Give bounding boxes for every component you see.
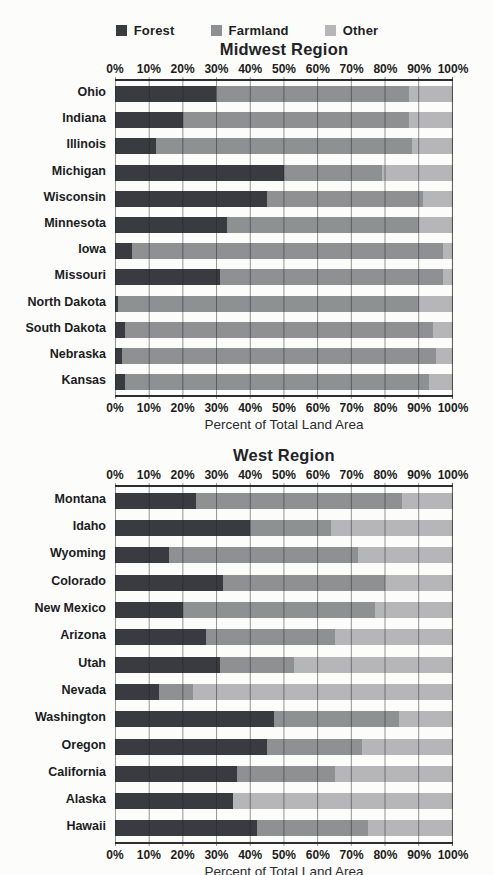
bar-row <box>115 515 453 542</box>
other-segment <box>423 191 453 207</box>
state-labels-column: MontanaIdahoWyomingColoradoNew MexicoAri… <box>0 485 115 844</box>
bar-row <box>115 733 453 760</box>
state-label: New Mexico <box>0 594 115 621</box>
other-segment <box>429 374 453 390</box>
bar-track <box>115 602 453 618</box>
other-segment <box>436 348 453 364</box>
x-tick: 60% <box>306 848 330 862</box>
x-axis-top: 0%10%20%30%40%50%60%70%80%90%100% <box>115 468 453 483</box>
state-label: Washington <box>0 704 115 731</box>
bar-track <box>115 793 453 809</box>
farmland-segment <box>132 243 443 259</box>
x-tick: 60% <box>306 401 330 415</box>
farmland-segment <box>183 602 376 618</box>
x-tick: 70% <box>340 848 364 862</box>
legend-item-forest: Forest <box>116 23 175 38</box>
other-segment <box>419 296 453 312</box>
farmland-segment <box>196 493 402 509</box>
farmland-segment <box>257 820 369 836</box>
other-segment <box>233 793 453 809</box>
x-tick: 10% <box>137 401 161 415</box>
x-tick: 20% <box>171 848 195 862</box>
farmland-segment <box>125 374 429 390</box>
x-tick: 60% <box>306 468 330 482</box>
legend-item-farmland: Farmland <box>211 23 289 38</box>
bar-track <box>115 520 453 536</box>
bar-track <box>115 191 453 207</box>
bars-column <box>115 79 453 397</box>
state-label: Nebraska <box>0 341 115 367</box>
bar-row <box>115 542 453 569</box>
state-label: Indiana <box>0 105 115 131</box>
bar-track <box>115 493 453 509</box>
legend-item-other: Other <box>325 23 379 38</box>
other-segment <box>409 112 453 128</box>
bar-row <box>115 569 453 596</box>
state-label: Idaho <box>0 513 115 540</box>
bar-row <box>115 186 453 212</box>
bar-row <box>115 815 453 842</box>
x-tick: 0% <box>106 401 123 415</box>
state-labels-column: OhioIndianaIllinoisMichiganWisconsinMinn… <box>0 79 115 397</box>
other-segment <box>409 86 453 102</box>
bar-track <box>115 243 453 259</box>
x-tick: 90% <box>407 848 431 862</box>
legend: ForestFarmlandOther <box>0 22 494 38</box>
bar-track <box>115 269 453 285</box>
forest-segment <box>115 684 159 700</box>
state-label: North Dakota <box>0 289 115 315</box>
state-label: Wyoming <box>0 540 115 567</box>
state-label: Missouri <box>0 262 115 288</box>
farmland-segment <box>227 217 420 233</box>
bar-row <box>115 133 453 159</box>
state-label: Minnesota <box>0 210 115 236</box>
other-segment <box>375 602 453 618</box>
x-tick: 70% <box>340 401 364 415</box>
farmland-segment <box>156 138 413 154</box>
bar-row <box>115 343 453 369</box>
legend-label: Other <box>343 23 379 38</box>
farmland-segment <box>183 112 409 128</box>
state-label: Oregon <box>0 731 115 758</box>
other-segment <box>385 575 453 591</box>
forest-segment <box>115 243 132 259</box>
forest-segment <box>115 165 284 181</box>
bar-track <box>115 86 453 102</box>
bar-row <box>115 107 453 133</box>
state-label: South Dakota <box>0 315 115 341</box>
forest-segment <box>115 602 183 618</box>
bar-track <box>115 296 453 312</box>
bar-row <box>115 238 453 264</box>
other-segment <box>335 766 453 782</box>
bar-track <box>115 348 453 364</box>
forest-segment <box>115 575 223 591</box>
state-label: Colorado <box>0 567 115 594</box>
forest-segment <box>115 793 233 809</box>
farmland-segment <box>216 86 409 102</box>
bar-track <box>115 374 453 390</box>
state-label: Ohio <box>0 79 115 105</box>
state-label: California <box>0 758 115 785</box>
other-swatch-icon <box>325 25 336 36</box>
farmland-segment <box>118 296 419 312</box>
x-tick: 20% <box>171 62 195 76</box>
x-tick: 30% <box>204 848 228 862</box>
x-tick: 100% <box>438 401 469 415</box>
forest-segment <box>115 820 257 836</box>
other-segment <box>443 243 453 259</box>
midwest-region-chart: Midwest Region 0%10%20%30%40%50%60%70%80… <box>0 40 494 432</box>
x-axis-bottom: 0%10%20%30%40%50%60%70%80%90%100% <box>115 848 453 863</box>
state-label: Utah <box>0 649 115 676</box>
x-axis-bottom: 0%10%20%30%40%50%60%70%80%90%100% <box>115 401 453 416</box>
other-segment <box>382 165 453 181</box>
x-tick: 80% <box>373 62 397 76</box>
state-label: Nevada <box>0 676 115 703</box>
x-tick: 30% <box>204 468 228 482</box>
other-segment <box>402 493 453 509</box>
x-tick: 0% <box>106 468 123 482</box>
bar-track <box>115 711 453 727</box>
state-label: Alaska <box>0 786 115 813</box>
forest-segment <box>115 657 220 673</box>
other-segment <box>335 629 453 645</box>
bar-track <box>115 112 453 128</box>
